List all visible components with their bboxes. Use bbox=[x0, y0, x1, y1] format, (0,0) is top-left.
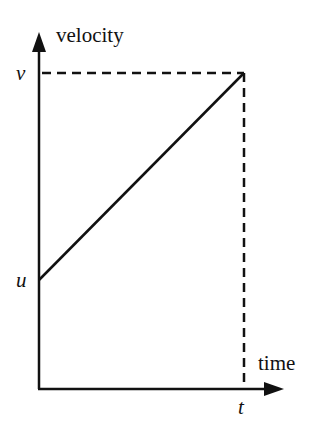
velocity-line bbox=[39, 73, 244, 280]
velocity-time-graph: velocity time v u t bbox=[0, 0, 315, 422]
x-axis-label: time bbox=[258, 351, 295, 375]
y-axis-arrow-icon bbox=[32, 32, 46, 52]
y-axis-label: velocity bbox=[56, 23, 124, 47]
t-marker-label: t bbox=[238, 395, 245, 419]
x-axis-arrow-icon bbox=[264, 382, 284, 396]
v-marker-label: v bbox=[16, 61, 26, 85]
u-marker-label: u bbox=[16, 268, 27, 292]
